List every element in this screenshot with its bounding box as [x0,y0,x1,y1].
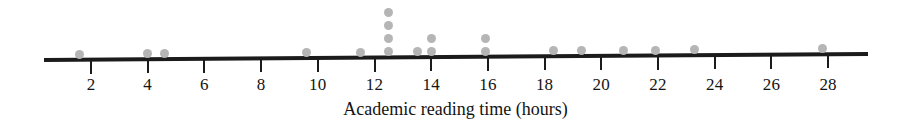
x-axis-tick [317,59,319,72]
x-axis-tick [203,60,205,73]
x-axis-title: Academic reading time (hours) [0,99,911,120]
x-axis-tick-label: 24 [706,76,723,93]
data-dot [427,34,436,43]
x-axis-tick [657,57,659,70]
data-dot [384,34,393,43]
x-axis-tick-label: 12 [366,76,383,93]
x-axis-tick [714,56,716,69]
x-axis-tick-label: 10 [309,76,326,93]
data-dot [651,46,660,55]
x-axis-tick [430,58,432,71]
x-axis-tick-label: 22 [649,76,666,93]
x-axis-tick [600,57,602,70]
x-axis-tick [487,58,489,71]
data-dot [549,46,558,55]
data-dot [413,47,422,56]
data-dot [577,46,586,55]
x-axis-tick-label: 2 [87,76,96,93]
x-axis-tick [827,55,829,68]
x-axis-tick-label: 8 [257,76,266,93]
data-dot [384,21,393,30]
x-axis-tick-label: 20 [593,76,610,93]
dot-plot-figure: 246810121416182022242628 Academic readin… [0,0,911,133]
data-dot [356,48,365,57]
x-axis-tick [90,61,92,74]
data-dot [427,47,436,56]
x-axis-tick [544,57,546,70]
data-dot [481,34,490,43]
x-axis-tick-label: 28 [819,76,836,93]
x-axis-tick-label: 16 [479,76,496,93]
data-dot [75,50,84,59]
x-axis-tick [770,56,772,69]
x-axis-tick [374,59,376,72]
x-axis-tick [260,59,262,72]
data-dot [302,48,311,57]
x-axis-tick-label: 18 [536,76,553,93]
x-axis-tick-label: 4 [143,76,152,93]
x-axis-tick [147,60,149,73]
x-axis-tick-label: 26 [763,76,780,93]
data-dot [481,47,490,56]
x-axis-tick-label: 14 [422,76,439,93]
x-axis-tick-label: 6 [200,76,209,93]
data-dot [384,8,393,17]
